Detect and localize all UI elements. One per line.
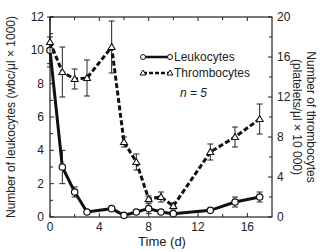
y2-axis-label-line2: (platelets/μl × 10 000) — [290, 59, 304, 175]
thrombocyte-marker — [47, 39, 54, 45]
y2-tick-label: 20 — [277, 10, 291, 24]
leukocyte-marker — [121, 212, 127, 218]
thrombocyte-marker — [121, 139, 128, 145]
y2-tick-label: 4 — [277, 170, 284, 184]
y2-axis-label-line1: Number of thrombocytes — [304, 51, 318, 182]
thrombocyte-marker — [108, 44, 115, 50]
leukocyte-marker — [207, 207, 213, 213]
x-tick-label: 8 — [145, 220, 152, 234]
leukocyte-marker — [256, 194, 262, 200]
leukocyte-marker — [108, 205, 114, 211]
leukocyte-marker — [170, 210, 176, 216]
leukocyte-marker — [232, 199, 238, 205]
x-axis-label: Time (d) — [138, 234, 186, 249]
leukocyte-marker — [59, 164, 65, 170]
y2-tick-label: 12 — [277, 90, 291, 104]
leukocyte-marker — [133, 209, 139, 215]
y-tick-label: 2 — [37, 177, 44, 191]
legend-leukocytes: Leukocytes — [174, 50, 235, 64]
x-tick-label: 4 — [96, 220, 103, 234]
legend-thrombocytes: Thrombocytes — [174, 66, 250, 80]
leukocyte-marker — [145, 205, 151, 211]
annotation-n: n = 5 — [180, 86, 207, 100]
y2-tick-label: 16 — [277, 50, 291, 64]
plot-frame — [50, 17, 272, 217]
y-axis-label: Number of leukocytes (wbc/μl × 1000) — [4, 16, 18, 218]
leukocyte-marker — [84, 209, 90, 215]
x-tick-label: 12 — [191, 220, 205, 234]
chart: 0481216024681012048121620 Time (d) Numbe… — [0, 0, 327, 252]
y-tick-label: 4 — [37, 143, 44, 157]
y2-tick-label: 8 — [277, 130, 284, 144]
y-tick-label: 10 — [31, 43, 45, 57]
x-tick-label: 16 — [241, 220, 255, 234]
leukocyte-marker — [71, 189, 77, 195]
y-tick-label: 8 — [37, 77, 44, 91]
x-tick-label: 0 — [47, 220, 54, 234]
thrombocyte-marker — [59, 69, 66, 75]
y-tick-label: 12 — [31, 10, 45, 24]
y2-tick-label: 0 — [277, 210, 284, 224]
y-tick-label: 6 — [37, 110, 44, 124]
y-tick-label: 0 — [37, 210, 44, 224]
thrombocyte-marker — [256, 116, 263, 122]
leukocyte-marker — [158, 209, 164, 215]
legend: Leukocytes Thrombocytes n = 5 — [140, 50, 250, 100]
